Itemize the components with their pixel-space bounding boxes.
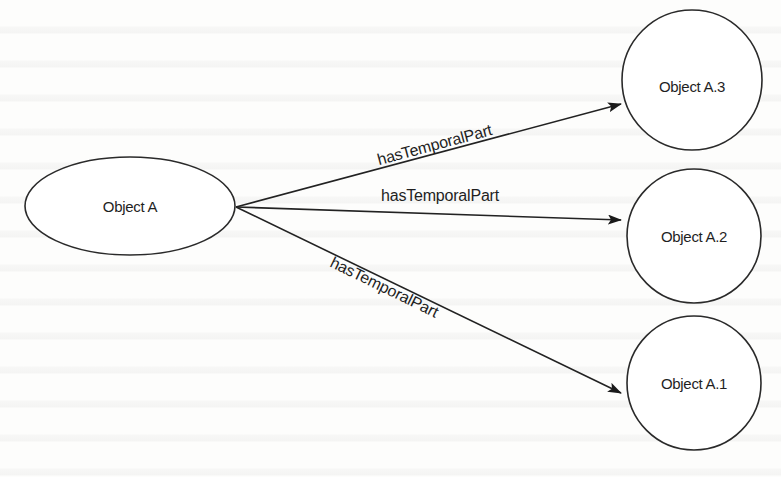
node-label: Object A <box>103 198 158 215</box>
node-object-a1: Object A.1 <box>627 316 761 450</box>
node-label: Object A.3 <box>659 78 725 95</box>
edge-label: hasTemporalPart <box>381 187 500 204</box>
node-object-a: Object A <box>25 157 235 255</box>
node-label: Object A.1 <box>661 375 727 392</box>
node-object-a2: Object A.2 <box>627 169 761 303</box>
arrow-icon <box>236 207 621 220</box>
edge-label: hasTemporalPart <box>375 121 494 168</box>
temporal-part-diagram: hasTemporalPart hasTemporalPart hasTempo… <box>0 0 781 477</box>
node-label: Object A.2 <box>661 228 727 245</box>
edge-a-to-a1: hasTemporalPart <box>236 207 621 393</box>
node-object-a3: Object A.3 <box>622 10 762 150</box>
edge-label: hasTemporalPart <box>328 254 442 321</box>
